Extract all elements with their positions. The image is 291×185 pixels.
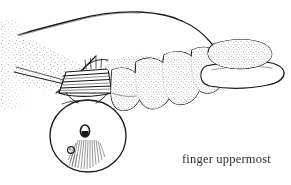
figure-root: finger uppermost — [0, 0, 291, 185]
ball-highlight — [80, 125, 89, 137]
ball-bead — [68, 147, 75, 154]
ball — [50, 100, 126, 172]
figure-caption: finger uppermost — [182, 153, 271, 166]
